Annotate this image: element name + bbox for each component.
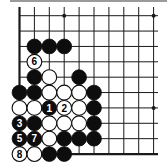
black-stone — [12, 85, 27, 100]
star-point-icon — [152, 14, 156, 18]
go-board: 6123578 — [0, 0, 167, 163]
move-number-label: 8 — [17, 149, 23, 160]
black-stone-icon — [42, 147, 57, 162]
black-stone-icon — [57, 131, 72, 146]
white-stone — [27, 147, 42, 162]
white-stone — [42, 131, 57, 146]
black-stone-move-7: 7 — [27, 131, 42, 146]
white-stone — [42, 85, 57, 100]
black-stone-icon — [12, 85, 27, 100]
black-stone-icon — [87, 101, 102, 116]
black-stone — [57, 131, 72, 146]
black-stone-icon — [87, 131, 102, 146]
black-stone-move-1: 1 — [42, 101, 57, 116]
white-stone-icon — [57, 116, 72, 131]
black-stone-icon — [72, 131, 87, 146]
white-stone — [57, 116, 72, 131]
white-stone-icon — [27, 147, 42, 162]
white-stone — [27, 101, 42, 116]
white-stone-icon — [12, 101, 27, 116]
white-stone — [42, 70, 57, 85]
white-stone — [57, 85, 72, 100]
black-stone — [87, 101, 102, 116]
black-stone — [27, 85, 42, 100]
white-stone — [72, 101, 87, 116]
black-stone — [27, 116, 42, 131]
move-number-label: 5 — [17, 133, 23, 144]
black-stone-icon — [27, 85, 42, 100]
black-stone — [27, 70, 42, 85]
black-stone — [42, 147, 57, 162]
white-stone-icon — [72, 101, 87, 116]
white-stone-icon — [42, 70, 57, 85]
black-stone — [72, 70, 87, 85]
black-stone-move-5: 5 — [12, 131, 27, 146]
white-stone-icon — [42, 85, 57, 100]
black-stone-move-3: 3 — [12, 116, 27, 131]
black-stone — [42, 39, 57, 54]
black-stone-icon — [87, 116, 102, 131]
move-number-label: 2 — [61, 103, 67, 114]
white-stone-icon — [42, 116, 57, 131]
move-number-label: 6 — [32, 56, 38, 67]
black-stone-icon — [72, 70, 87, 85]
white-stone-icon — [57, 85, 72, 100]
black-stone-icon — [57, 39, 72, 54]
star-point-icon — [152, 106, 156, 110]
white-stone — [72, 85, 87, 100]
white-stone — [72, 116, 87, 131]
black-stone — [87, 85, 102, 100]
black-stone — [72, 131, 87, 146]
white-stone-icon — [27, 101, 42, 116]
black-stone-icon — [57, 147, 72, 162]
black-stone — [57, 39, 72, 54]
move-number-label: 3 — [17, 118, 23, 129]
black-stone — [57, 147, 72, 162]
stones-layer: 6123578 — [12, 39, 101, 161]
black-stone — [27, 39, 42, 54]
white-stone-icon — [72, 85, 87, 100]
black-stone — [87, 131, 102, 146]
black-stone-icon — [27, 39, 42, 54]
move-number-label: 1 — [47, 103, 53, 114]
black-stone-icon — [87, 85, 102, 100]
white-stone — [12, 101, 27, 116]
white-stone-move-6: 6 — [27, 54, 42, 69]
white-stone-move-8: 8 — [12, 147, 27, 162]
white-stone — [42, 116, 57, 131]
white-stone-icon — [72, 116, 87, 131]
black-stone-icon — [27, 116, 42, 131]
white-stone-move-2: 2 — [57, 101, 72, 116]
move-number-label: 7 — [32, 133, 38, 144]
star-point-icon — [62, 14, 66, 18]
black-stone — [87, 116, 102, 131]
white-stone-icon — [42, 131, 57, 146]
black-stone-icon — [42, 39, 57, 54]
black-stone-icon — [27, 70, 42, 85]
